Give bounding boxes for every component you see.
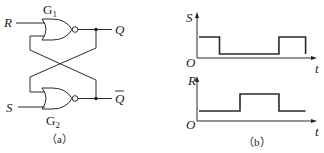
x-label-s: t — [315, 61, 319, 76]
y-label-r: R — [187, 73, 196, 88]
waveform-r — [199, 94, 306, 111]
x-axis-arrow-s — [311, 56, 317, 60]
plot-r: R O t — [186, 73, 319, 139]
y-axis-arrow-s — [195, 12, 199, 18]
y-label-s: S — [186, 10, 193, 25]
waveform-s — [199, 37, 306, 54]
inversion-bubble-g2 — [72, 96, 78, 102]
input-label-r: R — [3, 15, 12, 30]
x-axis-arrow-r — [311, 119, 317, 123]
gate-label-g1: G1 — [43, 2, 57, 19]
nor-gate-g1 — [42, 19, 78, 40]
origin-label-s: O — [186, 55, 196, 70]
nor-gate-g2 — [42, 88, 78, 109]
plot-s: S O t — [186, 10, 319, 76]
inversion-bubble-g1 — [72, 27, 78, 33]
gate-label-g2: G2 — [46, 113, 60, 130]
input-label-s: S — [6, 100, 13, 115]
caption-b: （b） — [243, 136, 271, 148]
rs-latch-circuit: G1 G2 R S Q Q （a） — [3, 2, 125, 145]
figure: G1 G2 R S Q Q （a） — [0, 0, 324, 153]
caption-a: （a） — [46, 133, 73, 145]
feedback-wire-qbar-to-g1 — [30, 36, 96, 99]
x-label-r: t — [315, 124, 319, 139]
output-label-q: Q — [115, 22, 125, 37]
timing-diagram: S O t R O t （b） — [186, 10, 319, 148]
origin-label-r: O — [186, 117, 196, 132]
feedback-wire-q-to-g2 — [30, 30, 96, 93]
output-label-qbar: Q — [115, 91, 125, 106]
